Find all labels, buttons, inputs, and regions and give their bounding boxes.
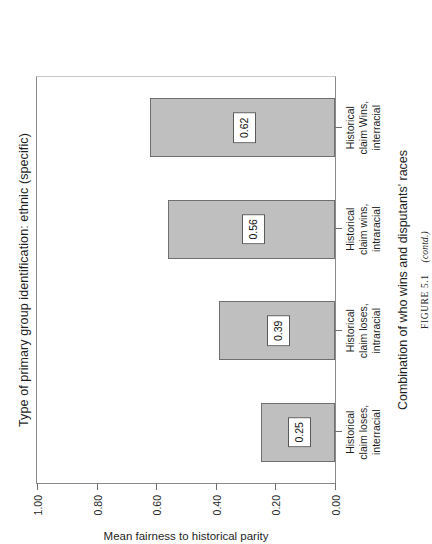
y-axis-tick-label: 0.60 bbox=[151, 495, 163, 515]
bar-value-label: 0.62 bbox=[233, 113, 257, 143]
bar: 0.25 bbox=[261, 403, 336, 462]
x-axis-category-line: intraracial bbox=[370, 276, 383, 386]
x-axis-category-label: Historicalclaim loses,intraracial bbox=[344, 276, 382, 386]
bar: 0.62 bbox=[150, 98, 335, 157]
x-axis-tick bbox=[335, 431, 342, 432]
y-axis-tick: 0.60 bbox=[156, 483, 157, 490]
x-axis-category-line: intraracial bbox=[370, 174, 383, 284]
x-axis-category-line: Historical bbox=[344, 377, 357, 487]
y-axis-tick-label: 0.00 bbox=[330, 495, 342, 515]
x-axis-tick bbox=[335, 127, 342, 128]
y-axis-tick-label: 0.20 bbox=[270, 495, 282, 515]
bar-value-label: 0.25 bbox=[288, 417, 312, 447]
x-axis-category-line: Historical bbox=[344, 276, 357, 386]
x-axis-category-line: interracial bbox=[370, 377, 383, 487]
bar-value-label: 0.56 bbox=[242, 214, 266, 244]
y-axis-tick: 0.20 bbox=[275, 483, 276, 490]
y-axis-tick: 1.00 bbox=[37, 483, 38, 490]
x-axis-category-line: Historical bbox=[344, 174, 357, 284]
y-axis-tick: 0.00 bbox=[335, 483, 336, 490]
bar: 0.56 bbox=[168, 200, 335, 259]
figure-number: FIGURE 5.1 bbox=[420, 274, 430, 329]
bar: 0.39 bbox=[219, 301, 335, 360]
x-axis-category-label: Historicalclaim wins,intraracial bbox=[344, 174, 382, 284]
x-axis-category-label: Historicalclaim Wins,interracial bbox=[344, 73, 382, 183]
y-axis-tick: 0.80 bbox=[97, 483, 98, 490]
chart-title: Type of primary group identification: et… bbox=[17, 54, 31, 506]
x-axis-category-line: claim loses, bbox=[357, 276, 370, 386]
figure-caption: FIGURE 5.1 (contd.) bbox=[420, 76, 430, 484]
bar-value-label: 0.39 bbox=[267, 316, 291, 346]
y-axis-tick-label: 1.00 bbox=[32, 495, 44, 515]
page-rotation-wrapper: Type of primary group identification: et… bbox=[0, 0, 432, 544]
x-axis-category-line: claim Wins, bbox=[357, 73, 370, 183]
y-axis-tick-label: 0.80 bbox=[92, 495, 104, 515]
plot-area: 0.000.200.400.600.801.000.25Historicalcl… bbox=[37, 77, 335, 483]
x-axis-title: Combination of who wins and disputants' … bbox=[396, 76, 410, 484]
figure-continued-note: (contd.) bbox=[420, 231, 430, 262]
x-axis-category-line: Historical bbox=[344, 73, 357, 183]
y-axis-title: Mean fairness to historical parity bbox=[36, 530, 336, 544]
x-axis-category-line: claim loses, bbox=[357, 377, 370, 487]
x-axis-tick bbox=[335, 228, 342, 229]
figure-bar-chart: Type of primary group identification: et… bbox=[0, 0, 432, 544]
y-axis-tick-label: 0.40 bbox=[211, 495, 223, 515]
x-axis-tick bbox=[335, 330, 342, 331]
x-axis-category-label: Historicalclaim loses,interracial bbox=[344, 377, 382, 487]
y-axis-tick: 0.40 bbox=[216, 483, 217, 490]
x-axis-category-line: claim wins, bbox=[357, 174, 370, 284]
x-axis-category-line: interracial bbox=[370, 73, 383, 183]
